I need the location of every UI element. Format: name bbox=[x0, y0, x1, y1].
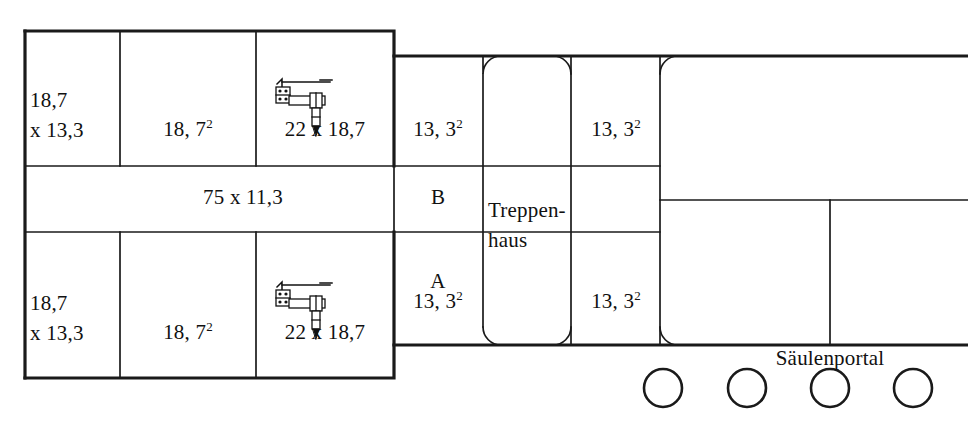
room-label-bottom-left-1: 18,7 x 13,3 bbox=[30, 289, 84, 349]
right-hall-interior-divider bbox=[660, 200, 968, 345]
room-label-top-left-1: 18,7 x 13,3 bbox=[30, 86, 84, 146]
column-2 bbox=[728, 369, 766, 407]
room-label-top-left-1-line1: 18,7 bbox=[30, 86, 84, 116]
room-label-top-left-3: 22 x 18,7 bbox=[285, 117, 366, 142]
room-label-bottom-left-2: 18, 72 bbox=[163, 320, 213, 345]
portal-label: Säulenportal bbox=[776, 346, 885, 371]
room-label-top-left-2: 18, 72 bbox=[163, 117, 213, 142]
room-label-bottom-right-1-exponent: 2 bbox=[456, 288, 463, 303]
room-label-bottom-left-3: 22 x 18,7 bbox=[285, 320, 366, 345]
room-label-top-right-1: 13, 32 bbox=[413, 117, 463, 142]
room-label-top-left-2-exponent: 2 bbox=[206, 116, 213, 131]
floor-plan-diagram: 18,7 x 13,3 18, 72 22 x 18,7 13, 32 13, … bbox=[0, 0, 968, 430]
room-label-top-right-1-exponent: 2 bbox=[456, 116, 463, 131]
stairwell-label: Treppen- haus bbox=[488, 196, 566, 256]
room-label-bottom-left-1-line2: x 13,3 bbox=[30, 319, 84, 349]
room-label-bottom-left-1-line1: 18,7 bbox=[30, 289, 84, 319]
portal-columns bbox=[644, 369, 932, 407]
corridor-mark-b: B bbox=[431, 185, 445, 210]
room-label-top-left-1-line2: x 13,3 bbox=[30, 116, 84, 146]
column-4 bbox=[894, 369, 932, 407]
stairwell-label-line1: Treppen- bbox=[488, 196, 566, 226]
stairwell-label-line2: haus bbox=[488, 226, 566, 256]
room-label-top-right-2: 13, 32 bbox=[591, 117, 641, 142]
room-label-top-right-2-exponent: 2 bbox=[634, 116, 641, 131]
column-1 bbox=[644, 369, 682, 407]
room-label-bottom-right-2-exponent: 2 bbox=[634, 288, 641, 303]
room-label-bottom-left-2-exponent: 2 bbox=[206, 319, 213, 334]
room-label-bottom-right-1: 13, 32 bbox=[413, 289, 463, 314]
corridor-label: 75 x 11,3 bbox=[203, 185, 283, 210]
room-label-bottom-right-2: 13, 32 bbox=[591, 289, 641, 314]
column-3 bbox=[811, 369, 849, 407]
